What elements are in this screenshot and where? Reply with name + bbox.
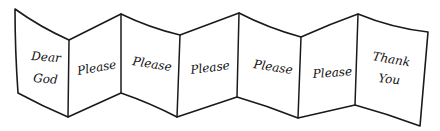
panel-1-line-1: Dear	[30, 49, 63, 65]
panel-1-line-2: God	[33, 71, 59, 87]
panel-7-line-2: You	[378, 71, 401, 87]
accordion-folded-card: Dear God Please Please Please Please Ple…	[0, 0, 440, 131]
fold-line-1	[68, 40, 69, 117]
panel-6: Please	[311, 64, 352, 81]
panel-6-line-1: Please	[311, 64, 352, 81]
